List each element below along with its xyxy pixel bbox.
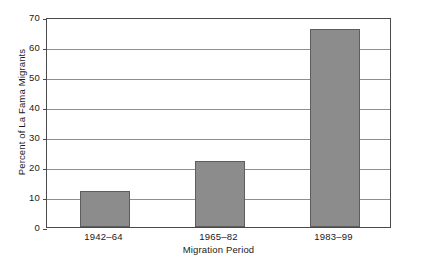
x-axis-tick-label: 1965–82	[161, 231, 276, 243]
y-axis-tick-mark	[43, 199, 47, 200]
x-axis-title: Migration Period	[46, 244, 391, 255]
y-axis-tick-mark	[43, 109, 47, 110]
x-axis-tick-label: 1983–99	[276, 231, 391, 243]
y-axis-tick-labels: 010203040506070	[0, 18, 40, 228]
x-axis-tick-labels: 1942–641965–821983–99	[46, 231, 391, 245]
bar	[195, 161, 245, 227]
y-axis-tick-mark	[43, 169, 47, 170]
bar-chart-figure: Percent of La Fama Migrants 010203040506…	[0, 0, 423, 268]
y-axis-tick-label: 0	[6, 223, 40, 233]
y-axis-tick-label: 70	[6, 13, 40, 23]
y-axis-tick-mark	[43, 19, 47, 20]
x-axis-tick-label: 1942–64	[46, 231, 161, 243]
bar	[80, 191, 130, 227]
bar	[310, 29, 360, 227]
y-axis-tick-label: 40	[6, 103, 40, 113]
y-axis-tick-label: 10	[6, 193, 40, 203]
y-axis-tick-mark	[43, 79, 47, 80]
y-axis-tick-label: 20	[6, 163, 40, 173]
y-axis-tick-label: 50	[6, 73, 40, 83]
y-axis-tick-label: 60	[6, 43, 40, 53]
y-axis-tick-label: 30	[6, 133, 40, 143]
plot-area	[46, 18, 391, 228]
y-axis-tick-mark	[43, 49, 47, 50]
y-axis-tick-mark	[43, 139, 47, 140]
y-axis-tick-mark	[43, 229, 47, 230]
